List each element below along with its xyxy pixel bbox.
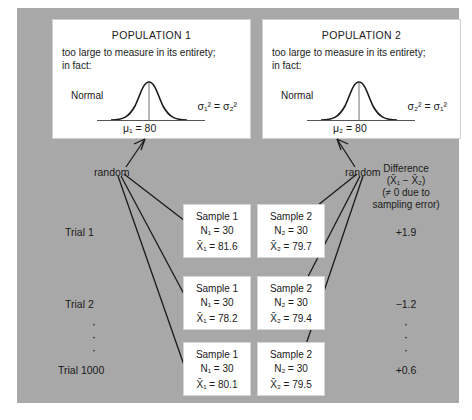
population-2-mean-label: μ₂ = 80: [333, 122, 367, 134]
trial-1-sample-1-name: Sample 1: [184, 210, 250, 224]
population-2-box: POPULATION 2 too large to measure in its…: [262, 19, 461, 139]
population-2-desc-line1: too large to measure in its entirety;: [272, 47, 460, 60]
random-label-left: random: [94, 166, 130, 178]
trial-1-sample-2-n: N₂ = 30: [258, 224, 324, 238]
population-1-desc-line1: too large to measure in its entirety;: [62, 47, 250, 60]
trial-2-sample-2-box: Sample 2 N₂ = 30 X̄₂ = 79.4: [257, 276, 325, 330]
trial-1-difference: +1.9: [353, 226, 459, 238]
difference-column-header: Difference (X̄₁ − X̄₂) (≠ 0 due to sampl…: [353, 163, 459, 211]
population-2-curve-area: Normal σ₂² = σ₁² μ₂ = 80: [263, 74, 460, 134]
sampling-distribution-diagram: POPULATION 1 too large to measure in its…: [0, 0, 472, 420]
population-1-mean-label: μ₁ = 80: [123, 122, 156, 134]
trial-1-sample-1-box: Sample 1 N₁ = 30 X̄₁ = 81.6: [183, 204, 251, 258]
trial-1-sample-2-name: Sample 2: [258, 210, 324, 224]
trial-1000-sample-1-name: Sample 1: [184, 348, 250, 362]
diagram-panel: POPULATION 1 too large to measure in its…: [17, 8, 459, 403]
trial-2-sample-1-name: Sample 1: [184, 282, 250, 296]
trial-1-sample-1-n: N₁ = 30: [184, 224, 250, 238]
trial-1000-sample-2-name: Sample 2: [258, 348, 324, 362]
trial-1-sample-2-box: Sample 2 N₂ = 30 X̄₂ = 79.7: [257, 204, 325, 258]
trial-1000-sample-2-n: N₂ = 30: [258, 362, 324, 376]
difference-head-line4: sampling error): [353, 199, 459, 211]
trial-1000-sample-1-mean: X̄₁ = 80.1: [184, 378, 250, 392]
trial-1-label: Trial 1: [65, 226, 94, 238]
population-1-variance-label: σ₁² = σ₂²: [197, 100, 237, 112]
trial-1000-difference: +0.6: [353, 364, 459, 376]
population-1-curve-area: Normal σ₁² = σ₂² μ₁ = 80: [53, 74, 250, 134]
trial-2-difference: −1.2: [353, 298, 459, 310]
trial-2-sample-1-mean: X̄₁ = 78.2: [184, 312, 250, 326]
difference-head-line1: Difference: [353, 163, 459, 175]
trial-label-ellipsis: · · ·: [74, 317, 114, 356]
ellipsis-dot: ·: [386, 343, 426, 356]
trial-1000-label: Trial 1000: [58, 364, 104, 376]
population-2-variance-label: σ₂² = σ₁²: [407, 100, 447, 112]
trial-2-sample-1-box: Sample 1 N₁ = 30 X̄₁ = 78.2: [183, 276, 251, 330]
trial-2-label: Trial 2: [65, 298, 94, 310]
trial-1000-sample-1-n: N₁ = 30: [184, 362, 250, 376]
trial-2-sample-2-n: N₂ = 30: [258, 296, 324, 310]
population-2-curve-label: Normal: [281, 90, 313, 101]
trial-2-sample-2-mean: X̄₂ = 79.4: [258, 312, 324, 326]
difference-ellipsis: · · ·: [386, 317, 426, 356]
population-2-title: POPULATION 2: [263, 29, 460, 41]
population-1-title: POPULATION 1: [53, 29, 250, 41]
population-2-desc-line2: in fact:: [272, 60, 460, 73]
population-1-box: POPULATION 1 too large to measure in its…: [52, 19, 251, 139]
population-1-curve-label: Normal: [71, 90, 103, 101]
difference-head-line3: (≠ 0 due to: [353, 187, 459, 199]
trial-2-sample-1-n: N₁ = 30: [184, 296, 250, 310]
trial-1000-sample-1-box: Sample 1 N₁ = 30 X̄₁ = 80.1: [183, 342, 251, 396]
difference-head-line2: (X̄₁ − X̄₂): [353, 175, 459, 187]
ellipsis-dot: ·: [74, 343, 114, 356]
trial-1-sample-2-mean: X̄₂ = 79.7: [258, 240, 324, 254]
population-1-desc-line2: in fact:: [62, 60, 250, 73]
trial-2-sample-2-name: Sample 2: [258, 282, 324, 296]
trial-1-sample-1-mean: X̄₁ = 81.6: [184, 240, 250, 254]
trial-1000-sample-2-mean: X̄₂ = 79.5: [258, 378, 324, 392]
trial-1000-sample-2-box: Sample 2 N₂ = 30 X̄₂ = 79.5: [257, 342, 325, 396]
